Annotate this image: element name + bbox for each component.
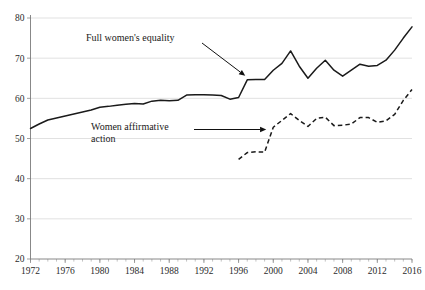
annotation-arrow-affirmative-action-head xyxy=(260,127,266,132)
x-tick-label-1972: 1972 xyxy=(21,266,40,276)
annotation-arrow-full-equality-head xyxy=(239,70,246,76)
y-tick-label-80: 80 xyxy=(15,13,25,23)
x-tick-label-1984: 1984 xyxy=(125,266,144,276)
annotation-arrow-full-equality-shaft xyxy=(202,43,240,72)
y-tick-label-30: 30 xyxy=(15,214,25,224)
annotation-label-full-equality: Full women's equality xyxy=(86,32,174,43)
annotation-arrow-affirmative-action xyxy=(194,127,266,132)
annotation-label-affirmative-action-line1: Women affirmative xyxy=(91,121,169,132)
x-tick-label-2016: 2016 xyxy=(403,266,422,276)
y-tick-label-50: 50 xyxy=(15,134,25,144)
x-tick-label-1976: 1976 xyxy=(56,266,75,276)
chart-container: 20304050607080 1972197619801984198819921… xyxy=(0,0,425,290)
series-group xyxy=(31,27,413,160)
y-axis-ticks-group: 20304050607080 xyxy=(15,13,31,264)
x-tick-label-2004: 2004 xyxy=(298,266,317,276)
annotation-label-affirmative-action-line2: action xyxy=(91,133,115,144)
line-chart: 20304050607080 1972197619801984198819921… xyxy=(0,0,425,290)
x-tick-label-2008: 2008 xyxy=(333,266,352,276)
y-tick-label-20: 20 xyxy=(15,254,25,264)
annotation-arrow-full-equality xyxy=(202,43,245,76)
gridlines-group xyxy=(31,18,413,219)
series-line-1 xyxy=(239,90,412,160)
y-tick-label-70: 70 xyxy=(15,54,25,64)
x-tick-label-2000: 2000 xyxy=(264,266,283,276)
x-tick-label-1992: 1992 xyxy=(194,266,213,276)
annotations-group: Full women's equalityWomen affirmativeac… xyxy=(86,32,266,144)
x-tick-label-2012: 2012 xyxy=(368,266,387,276)
x-tick-label-1996: 1996 xyxy=(229,266,248,276)
x-tick-label-1988: 1988 xyxy=(160,266,179,276)
x-tick-label-1980: 1980 xyxy=(90,266,109,276)
y-tick-label-40: 40 xyxy=(15,174,25,184)
y-tick-label-60: 60 xyxy=(15,94,25,104)
